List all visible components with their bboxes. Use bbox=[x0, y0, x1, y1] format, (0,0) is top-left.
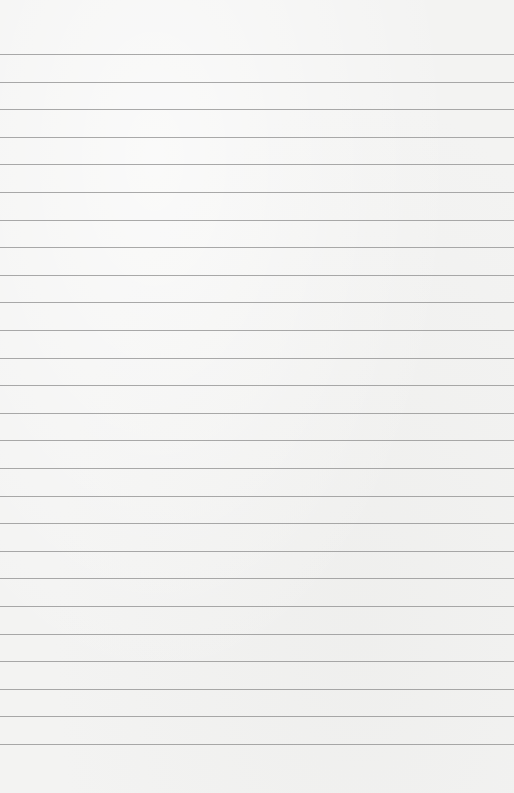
ruled-line bbox=[0, 220, 514, 221]
ruled-line bbox=[0, 385, 514, 386]
lined-paper-sheet bbox=[0, 0, 514, 793]
ruled-line bbox=[0, 330, 514, 331]
ruled-line bbox=[0, 689, 514, 690]
ruled-line bbox=[0, 109, 514, 110]
ruled-line bbox=[0, 440, 514, 441]
ruled-line bbox=[0, 661, 514, 662]
ruled-line bbox=[0, 578, 514, 579]
ruled-line bbox=[0, 496, 514, 497]
ruled-line bbox=[0, 606, 514, 607]
ruled-line bbox=[0, 634, 514, 635]
ruled-line bbox=[0, 275, 514, 276]
ruled-line bbox=[0, 54, 514, 55]
ruled-line bbox=[0, 358, 514, 359]
ruled-line bbox=[0, 82, 514, 83]
ruled-line bbox=[0, 413, 514, 414]
ruled-line bbox=[0, 744, 514, 745]
ruled-line bbox=[0, 247, 514, 248]
ruled-line bbox=[0, 137, 514, 138]
ruled-line bbox=[0, 716, 514, 717]
ruled-line bbox=[0, 523, 514, 524]
ruled-line bbox=[0, 192, 514, 193]
ruled-line bbox=[0, 164, 514, 165]
ruled-line bbox=[0, 468, 514, 469]
ruled-line bbox=[0, 551, 514, 552]
ruled-line bbox=[0, 302, 514, 303]
